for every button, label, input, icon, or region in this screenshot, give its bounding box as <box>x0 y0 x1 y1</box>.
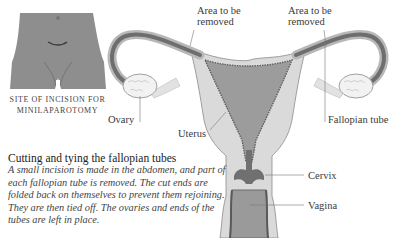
inset-caption-line1: Site of incision for <box>0 94 115 105</box>
label-cervix: Cervix <box>308 170 337 181</box>
inset-caption: Site of incision for minilaparotomy <box>0 94 115 116</box>
inset-caption-line2: minilaparotomy <box>0 105 115 116</box>
label-area-right-line2: removed <box>288 16 332 27</box>
label-vagina: Vagina <box>308 200 337 211</box>
left-ovary-icon <box>123 74 157 98</box>
left-fallopian-tube-icon <box>112 35 200 86</box>
description-body: A small incision is made in the abdomen,… <box>8 164 228 227</box>
label-area-left: Area to be removed <box>197 5 241 27</box>
label-area-right: Area to be removed <box>288 5 332 27</box>
label-ovary: Ovary <box>108 114 134 125</box>
right-ovary-icon <box>339 74 373 98</box>
label-area-right-line1: Area to be <box>288 5 332 16</box>
label-fallopian-tube: Fallopian tube <box>328 114 388 125</box>
description-block: Cutting and tying the fallopian tubes A … <box>8 152 228 227</box>
right-fallopian-tube-icon <box>296 35 384 86</box>
label-uterus: Uterus <box>178 128 206 139</box>
label-area-left-line2: removed <box>197 16 241 27</box>
description-heading: Cutting and tying the fallopian tubes <box>8 152 228 164</box>
torso-inset-icon <box>10 13 106 89</box>
label-area-left-line1: Area to be <box>197 5 241 16</box>
